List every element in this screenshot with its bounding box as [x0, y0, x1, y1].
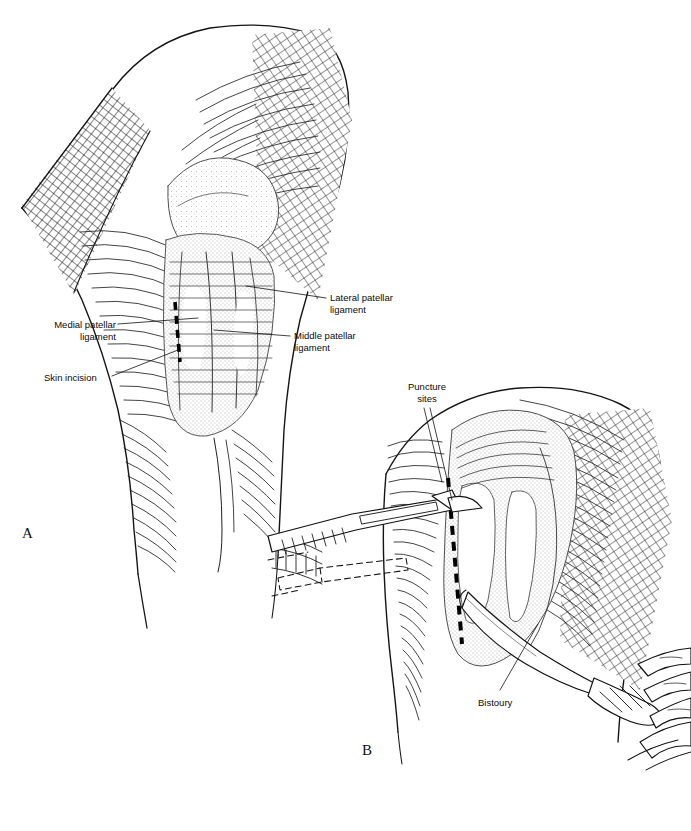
panel-letter-b: B — [362, 742, 372, 759]
label-middle-patellar-ligament: Middle patellar ligament — [294, 330, 404, 353]
label-lateral-patellar-ligament: Lateral patellar ligament — [330, 292, 440, 315]
label-medial-patellar-ligament: Medial patellar ligament — [8, 319, 116, 342]
panel-a-skin-fold-hatch — [10, 70, 180, 320]
figure-artwork — [0, 0, 691, 831]
panel-b-patella-ligaments — [444, 410, 577, 666]
label-puncture-sites: Puncture sites — [396, 381, 458, 404]
panel-letter-a: A — [22, 525, 33, 542]
scalpel-ghost-outline — [268, 552, 408, 596]
panel-a-patellar-ligaments — [163, 233, 274, 436]
panel-a-lower-limb-hatch — [120, 420, 275, 572]
label-skin-incision: Skin incision — [44, 372, 124, 384]
illustration-page: Lateral patellar ligament Middle patella… — [0, 0, 691, 831]
panel-b-striations-left — [388, 440, 444, 720]
label-bistoury: Bistoury — [478, 697, 538, 709]
